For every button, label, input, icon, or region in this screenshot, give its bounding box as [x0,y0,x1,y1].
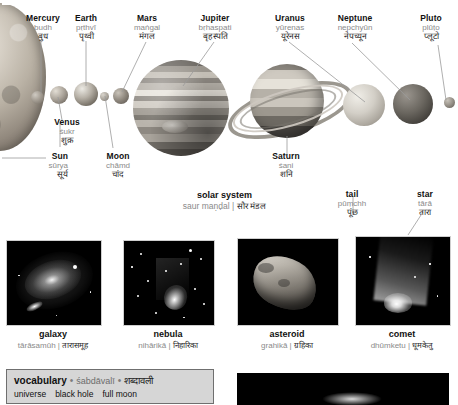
label-star: star tārā तारा [404,190,446,218]
caption-nebula: nebula nihārikā | निहारिका [112,329,224,350]
star-dot [131,266,133,268]
label-tail: tail pūṃchh पूंछ [328,190,376,218]
venus-body [50,86,68,104]
vocabulary-heading-translit: śabdāvalī [76,376,115,386]
photo-galaxy [6,240,102,326]
vocabulary-box: vocabulary•śabdāvalī•शब्दावली universebl… [6,369,214,404]
star-dot [183,317,185,319]
uranus-body [343,84,385,126]
galaxy-halo [8,242,100,319]
vocabulary-heading-devanagari: शब्दावली [124,375,153,386]
star-dot [429,263,431,265]
jupiter-body [133,60,229,156]
label-sun: Sun sūrya सूर्य [8,152,68,180]
star-dot [56,315,58,317]
photo-asteroid [237,238,339,326]
star-dot [155,312,157,314]
earth-body [74,82,98,106]
nebula-wisp [156,258,188,300]
pluto-body [444,97,455,108]
label-pluto: Pluto plūṭo प्लूटो [412,14,450,42]
vocabulary-heading-en: vocabulary [14,375,67,386]
vocabulary-terms: universeblack holefull moon [14,389,146,399]
label-saturn: Saturn śani शनि [262,152,310,180]
star-dot [137,295,140,298]
bottom-strip-glow [322,392,382,405]
moon-body [100,92,109,101]
comet-nucleus [384,293,412,312]
vocabulary-term: full moon [102,389,146,399]
bullet-separator: • [67,375,77,386]
star-dot [189,249,192,252]
photo-comet [355,236,451,326]
mercury-body [31,91,44,104]
mars-body [113,88,129,104]
star-dot [194,288,196,290]
star-dot [437,295,439,297]
saturn-body [226,62,348,152]
neptune-body [393,84,433,124]
star-dot [200,258,202,260]
bullet-separator: • [115,375,125,386]
star-dot [369,256,371,258]
photo-bottom-strip [237,373,449,405]
star-dot [140,253,142,255]
caption-comet: comet dhūmketu | धूमकेतु [346,329,458,350]
star-dot [18,275,20,277]
vocabulary-heading: vocabulary•śabdāvalī•शब्दावली [14,374,153,387]
solar-system-caption-en: solar system [0,190,449,200]
label-uranus: Uranus yūrenas यूरेनस [262,14,318,42]
solar-system-caption: solar system saur maṇḍal | सौर मंडल [0,190,449,211]
star-dot [203,303,205,305]
great-red-spot [162,120,188,133]
label-venus: Venus śukr शुक्र [40,118,94,146]
label-jupiter: Jupiter bṛhaspati बृहस्पति [186,14,244,42]
photo-nebula [123,240,215,326]
asteroid-crater [278,279,290,288]
page-corner-mark [2,0,12,5]
caption-asteroid: asteroid grahikā | ग्रहिका [231,329,343,350]
star-dot [147,280,149,282]
caption-galaxy: galaxy tārāsamūh | तारासमूह [0,329,109,350]
vocabulary-term: universe [14,389,55,399]
label-moon: Moon chāmd चांद [92,152,144,180]
vocabulary-term: black hole [55,389,102,399]
label-earth: Earth pṛthvī पृथ्वी [60,14,112,42]
label-neptune: Neptune nepchyūn नेपच्यून [326,14,384,42]
solar-system-caption-translit: saur maṇḍal | सौर मंडल [0,200,449,211]
star-dot [90,291,92,293]
label-mars: Mars maṅgal मंगल [122,14,172,42]
